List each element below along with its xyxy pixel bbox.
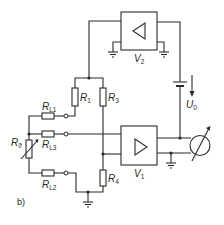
label-rl2: RL2 <box>42 179 57 191</box>
node <box>178 136 181 139</box>
terminal <box>64 114 68 118</box>
label-rl1: RL1 <box>42 101 57 113</box>
resistor-rl3 <box>42 131 54 137</box>
ground-icon <box>83 202 93 207</box>
resistor-r1 <box>72 88 78 106</box>
ground-icon <box>159 52 169 57</box>
terminal <box>64 132 68 136</box>
label-rl3: RL3 <box>42 139 57 151</box>
wire-v2-input <box>89 21 121 78</box>
label-r3: R3 <box>108 92 119 104</box>
battery-icon <box>173 82 187 86</box>
figure-caption: b) <box>17 197 25 207</box>
wire-rl1-left <box>29 116 42 140</box>
label-r4: R4 <box>108 173 119 185</box>
resistor-rl2 <box>42 170 54 176</box>
amplifier-v2 <box>121 12 157 50</box>
wire-v2-ground <box>113 42 121 52</box>
meter-icon <box>190 126 211 161</box>
resistor-rtheta <box>26 140 32 158</box>
wire-rl2-left <box>29 158 42 173</box>
wire-v2-out-ground <box>157 42 164 52</box>
ground-icon <box>166 163 176 168</box>
ground-icon <box>108 52 118 57</box>
wire-bottom <box>68 173 103 192</box>
wire-r1-down <box>68 106 75 116</box>
terminal <box>64 171 68 175</box>
schematic: U0 R1 R3 RL1 RL3 Rϑ RL2 R4 <box>0 0 224 225</box>
label-rtheta: Rϑ <box>11 137 22 149</box>
resistor-r4 <box>100 170 106 186</box>
label-u0: U0 <box>186 99 197 111</box>
resistor-r3 <box>100 88 106 106</box>
amplifier-v1 <box>121 126 157 165</box>
resistor-rl1 <box>42 113 54 119</box>
circuit-diagram: U0 R1 R3 RL1 RL3 Rϑ RL2 R4 <box>0 0 224 225</box>
voltage-arrow-icon <box>190 75 195 97</box>
label-v2: V2 <box>134 53 145 65</box>
label-v1: V1 <box>134 168 145 180</box>
label-r1: R1 <box>80 92 91 104</box>
